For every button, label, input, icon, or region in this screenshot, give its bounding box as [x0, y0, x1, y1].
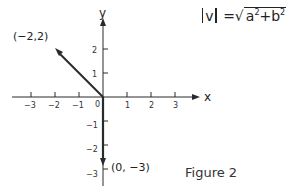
- x-axis-arrow-icon: [192, 94, 200, 100]
- formula-equals: =: [223, 8, 235, 24]
- x-tick-label: −3: [24, 101, 36, 110]
- abs-bar-left: [202, 8, 203, 23]
- formula-plus: +: [259, 8, 271, 24]
- figure-caption: Figure 2: [185, 165, 237, 180]
- x-tick-label: −2: [48, 101, 60, 110]
- x-axis-label: x: [204, 90, 211, 104]
- vector-label: (−2,2): [13, 30, 48, 43]
- formula-v: v: [205, 8, 213, 24]
- origin-label: 0: [95, 100, 100, 109]
- formula-b: b: [271, 8, 280, 24]
- sqrt-sign: √: [235, 8, 244, 24]
- y-tick-label: −3: [86, 170, 98, 179]
- y-tick-label: −1: [86, 121, 98, 130]
- vector-label: (0, −3): [111, 161, 150, 174]
- abs-bar-right: [215, 8, 216, 23]
- formula-radicand: a2+b2: [244, 7, 286, 24]
- vector-arrowhead-icon: [100, 158, 106, 166]
- formula-exponent: 2: [280, 8, 285, 17]
- y-tick-label: −2: [86, 145, 98, 154]
- y-tick-label: 1: [92, 70, 97, 79]
- magnitude-formula: v =√a2+b2: [200, 8, 286, 24]
- y-tick-label: 2: [92, 46, 97, 55]
- coordinate-plane: x y −3 −2 −1 0 1 2 3 2 1 −1 −2 −3 (−2,2)…: [0, 0, 290, 193]
- x-tick-label: −1: [72, 101, 84, 110]
- x-tick-label: 2: [149, 101, 154, 110]
- x-tick-label: 1: [125, 101, 130, 110]
- x-tick-label: 3: [173, 101, 178, 110]
- y-axis-label: y: [99, 6, 106, 20]
